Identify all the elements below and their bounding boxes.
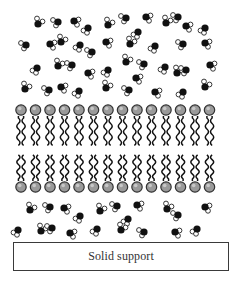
oxygen-atom: [104, 21, 111, 28]
head-highlight: [18, 107, 22, 111]
water-molecule: [171, 211, 182, 221]
hydrogen-atom: [202, 79, 207, 84]
oxygen-atom: [151, 88, 158, 95]
hydrocarbon-tail: [75, 116, 78, 146]
lipid-tails: [191, 155, 199, 181]
water-molecule: [19, 41, 30, 51]
head-highlight: [163, 184, 167, 188]
polar-head-group: [132, 105, 142, 115]
hydrocarbon-tail: [124, 116, 127, 146]
head-highlight: [90, 107, 94, 111]
water-molecule: [84, 69, 95, 79]
phospholipid: [74, 155, 84, 192]
hydrocarbon-tail: [191, 116, 194, 146]
phospholipid: [161, 105, 171, 146]
oxygen-atom: [151, 42, 158, 49]
hydrocarbon-tail: [60, 155, 63, 181]
phospholipid: [30, 105, 40, 146]
oxygen-atom: [33, 64, 40, 71]
oxygen-atom: [122, 14, 129, 21]
hydrogen-atom: [27, 202, 32, 207]
lipid-tails: [147, 155, 155, 181]
supported-lipid-bilayer-diagram: Solid support: [0, 0, 240, 284]
polar-head-group: [30, 182, 40, 192]
head-highlight: [105, 107, 109, 111]
oxygen-atom: [66, 229, 73, 236]
hydrocarbon-tail: [109, 116, 112, 146]
head-highlight: [76, 184, 80, 188]
phospholipid: [59, 105, 69, 146]
water-molecule: [65, 61, 76, 71]
polar-head-group: [161, 105, 171, 115]
oxygen-atom: [22, 41, 29, 48]
oxygen-atom: [68, 61, 75, 68]
head-highlight: [119, 107, 123, 111]
phospholipid: [117, 155, 127, 192]
hydrocarbon-tail: [22, 116, 25, 146]
phospholipid: [204, 155, 214, 192]
oxygen-atom: [201, 83, 208, 90]
lower-leaflet: [16, 155, 215, 192]
hydrocarbon-tail: [80, 155, 83, 181]
hydrocarbon-tail: [176, 116, 179, 146]
head-highlight: [206, 184, 210, 188]
hydrocarbon-tail: [162, 116, 165, 146]
phospholipid: [103, 105, 113, 146]
water-molecule: [137, 228, 148, 238]
water-molecule: [171, 228, 182, 238]
hydrocarbon-tail: [89, 116, 92, 146]
oxygen-atom: [102, 84, 109, 91]
lipid-tails: [133, 155, 141, 181]
oxygen-atom: [48, 224, 55, 231]
oxygen-atom: [14, 226, 21, 233]
head-highlight: [32, 184, 36, 188]
oxygen-atom: [174, 211, 181, 218]
phospholipid: [146, 155, 156, 192]
water-molecule: [119, 14, 130, 24]
hydrogen-atom: [163, 15, 168, 20]
oxygen-atom: [125, 86, 132, 93]
hydrocarbon-tail: [95, 116, 98, 146]
oxygen-atom: [113, 202, 120, 209]
phospholipid: [103, 155, 113, 192]
oxygen-atom: [133, 201, 140, 208]
phospholipid: [190, 105, 200, 146]
oxygen-atom: [104, 66, 111, 73]
water-molecule: [66, 229, 77, 239]
water-molecule: [34, 16, 44, 27]
lipid-tails: [75, 116, 83, 146]
hydrocarbon-tail: [205, 155, 208, 181]
water-molecule: [72, 87, 83, 98]
polar-head-group: [204, 182, 214, 192]
oxygen-atom: [182, 22, 189, 29]
polar-head-group: [190, 182, 200, 192]
oxygen-atom: [46, 40, 53, 47]
water-molecule: [132, 74, 143, 84]
hydrogen-atom: [22, 81, 27, 86]
hydrocarbon-tail: [104, 116, 107, 146]
phospholipid: [45, 155, 55, 192]
water-molecule: [182, 22, 193, 32]
hydrocarbon-tail: [133, 116, 136, 146]
lipid-tails: [205, 155, 213, 181]
oxygen-atom: [171, 228, 178, 235]
hydrocarbon-tail: [109, 155, 112, 181]
water-molecule: [60, 204, 71, 214]
oxygen-atom: [76, 212, 83, 219]
bulk-water-region-top: [19, 13, 217, 100]
polar-head-group: [59, 182, 69, 192]
head-highlight: [105, 184, 109, 188]
lipid-tails: [60, 155, 68, 181]
polar-head-group: [30, 105, 40, 115]
hydrogen-atom: [118, 222, 123, 227]
oxygen-atom: [163, 205, 170, 212]
oxygen-atom: [96, 207, 103, 214]
lipid-tails: [147, 116, 155, 146]
polar-head-group: [175, 105, 185, 115]
water-molecule: [90, 225, 101, 236]
water-molecule: [206, 61, 217, 71]
polar-head-group: [74, 105, 84, 115]
lipid-tails: [46, 155, 54, 181]
hydrocarbon-tail: [75, 155, 78, 181]
water-molecule: [73, 41, 84, 52]
